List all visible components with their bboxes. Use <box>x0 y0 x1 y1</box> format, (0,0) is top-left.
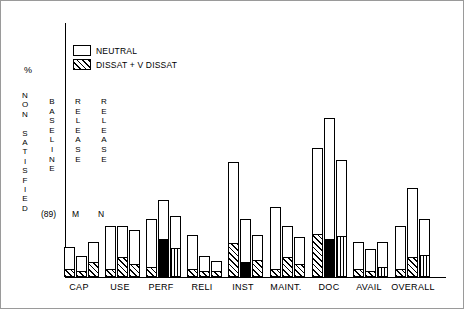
bar <box>76 256 87 277</box>
bar <box>353 242 364 277</box>
bar <box>240 219 251 277</box>
bar <box>199 256 210 277</box>
bar <box>312 148 323 277</box>
bar <box>117 226 128 277</box>
bar <box>129 230 140 277</box>
x-tick-cap: CAP <box>56 282 102 292</box>
bar-segment-dissat <box>65 269 74 276</box>
x-tick-inst: INST <box>220 282 266 292</box>
bar-plot-area <box>1 1 464 309</box>
bar-segment-dissat <box>118 257 127 276</box>
bar-segment-dissat <box>147 267 156 276</box>
bar <box>64 247 75 277</box>
bar <box>377 242 388 277</box>
bar-segment-dissat <box>77 271 86 276</box>
bar <box>187 235 198 277</box>
bar <box>211 261 222 277</box>
bar <box>407 188 418 277</box>
bar-segment-dissat <box>420 255 429 276</box>
bar-segment-dissat <box>354 269 363 276</box>
bar-segment-dissat <box>212 271 221 276</box>
bar-segment-dissat <box>271 269 280 276</box>
bar-segment-dissat <box>130 264 139 276</box>
bar-segment-dissat <box>283 257 292 276</box>
bar-segment-dissat <box>89 262 98 276</box>
bar <box>252 235 263 277</box>
bar <box>146 219 157 277</box>
bar-segment-dissat <box>241 262 250 276</box>
bar-segment-dissat <box>200 271 209 276</box>
bar-segment-dissat <box>106 269 115 276</box>
x-tick-overall: OVERALL <box>384 282 442 292</box>
x-tick-perf: PERF <box>138 282 184 292</box>
x-tick-use: USE <box>97 282 143 292</box>
bar-segment-dissat <box>313 234 322 276</box>
bar <box>419 219 430 277</box>
bar-segment-dissat <box>229 243 238 276</box>
bar-segment-dissat <box>337 236 346 276</box>
bar <box>270 207 281 277</box>
bar-segment-dissat <box>325 239 334 276</box>
bar-segment-dissat <box>366 271 375 276</box>
bar-segment-dissat <box>396 269 405 276</box>
x-tick-reli: RELI <box>179 282 225 292</box>
bar <box>395 226 406 277</box>
bar-segment-dissat <box>188 269 197 276</box>
bar-segment-dissat <box>253 260 262 276</box>
bar-segment-dissat <box>171 248 180 276</box>
bar-segment-dissat <box>378 267 387 276</box>
bar <box>105 226 116 277</box>
bar <box>158 200 169 277</box>
bar-segment-dissat <box>159 239 168 276</box>
bar-segment-dissat <box>408 257 417 276</box>
bar <box>282 226 293 277</box>
bar <box>170 216 181 277</box>
bar <box>324 118 335 277</box>
chart-container: % N O N S A T I S F I E D NEUTRAL DISSAT… <box>0 0 464 309</box>
x-tick-maint: MAINT. <box>261 282 311 292</box>
bar <box>88 242 99 277</box>
bar <box>228 162 239 277</box>
bar <box>294 237 305 277</box>
bar-segment-dissat <box>295 264 304 276</box>
bar <box>336 160 347 277</box>
bar <box>365 249 376 277</box>
